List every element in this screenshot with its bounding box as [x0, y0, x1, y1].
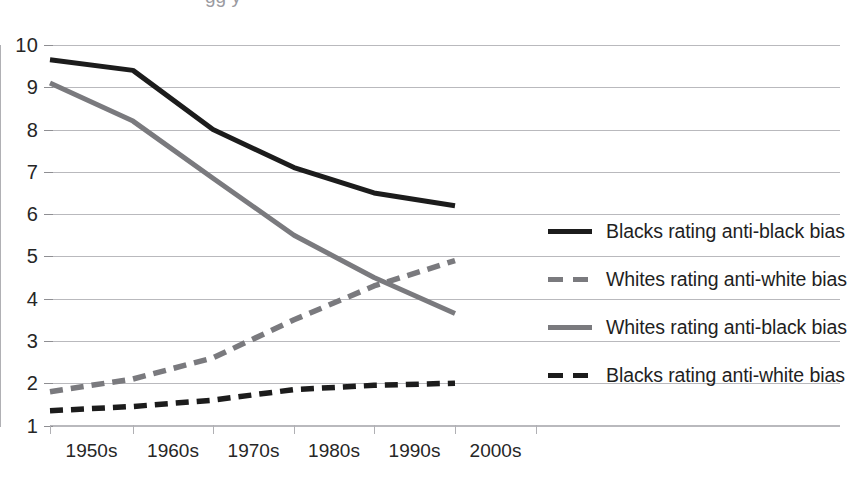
legend: Blacks rating anti-black biasWhites rati…: [548, 207, 848, 399]
legend-item-label: Blacks rating anti-white bias: [606, 364, 845, 387]
series-line-0: [50, 60, 455, 206]
solid-gray-line-icon: [548, 320, 592, 334]
legend-item[interactable]: Whites rating anti-black bias: [548, 303, 848, 351]
dashed-black-line-icon: [548, 368, 592, 382]
legend-item[interactable]: Blacks rating anti-black bias: [548, 207, 848, 255]
solid-black-line-icon: [548, 224, 592, 238]
legend-item-label: Whites rating anti-black bias: [606, 316, 847, 339]
series-line-3: [50, 383, 455, 410]
legend-item[interactable]: Whites rating anti-white bias: [548, 255, 848, 303]
series-line-1: [50, 261, 455, 392]
line-chart: gg y 12345678910 1950s1960s1970s1980s199…: [0, 0, 848, 480]
dashed-gray-line-icon: [548, 272, 592, 286]
legend-item-label: Whites rating anti-white bias: [606, 268, 847, 291]
legend-item-label: Blacks rating anti-black bias: [606, 220, 845, 243]
legend-item[interactable]: Blacks rating anti-white bias: [548, 351, 848, 399]
